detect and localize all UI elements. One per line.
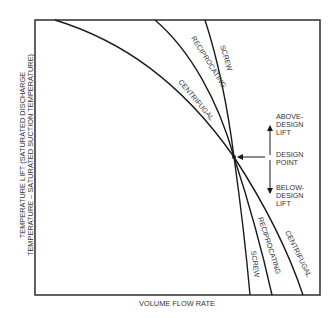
compressor-curves-diagram: SCREW RECIPROCATING CENTRIFUGAL SCREW RE… <box>0 0 334 318</box>
x-axis-label: VOLUME FLOW RATE <box>139 299 215 308</box>
below-design-lift-line3: LIFT <box>276 199 291 208</box>
design-point-marker <box>232 155 236 159</box>
y-axis-label-line2: TEMPERATURE – SATURATED SUCTION TEMPERAT… <box>26 54 35 256</box>
centrifugal-curve <box>55 20 303 295</box>
design-point-line2: POINT <box>276 158 299 167</box>
reciprocating-label-upper: RECIPROCATING <box>189 34 228 89</box>
screw-label-lower: SCREW <box>249 250 262 278</box>
centrifugal-label-upper: CENTRIFUGAL <box>176 78 215 123</box>
above-design-lift-line3: LIFT <box>276 128 291 137</box>
screw-label-upper: SCREW <box>218 44 234 72</box>
